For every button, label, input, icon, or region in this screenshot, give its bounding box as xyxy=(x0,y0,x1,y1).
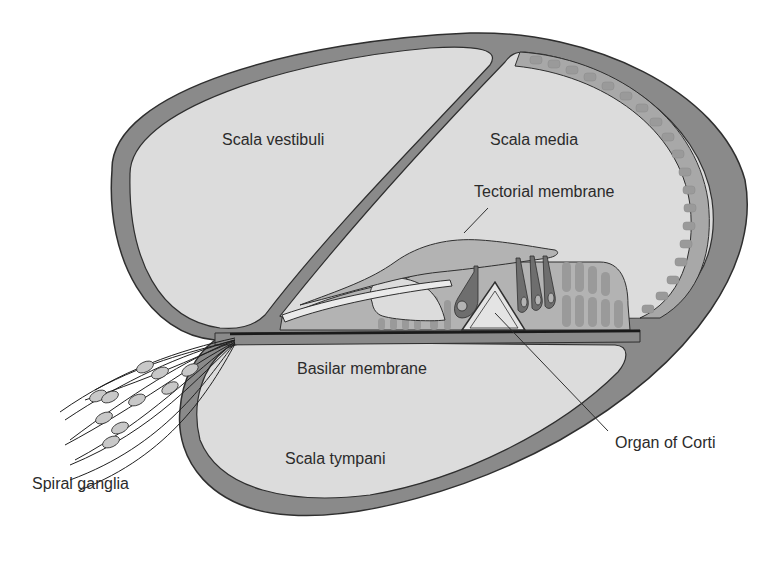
label-scala-media: Scala media xyxy=(490,131,578,149)
label-spiral-ganglia: Spiral ganglia xyxy=(32,475,129,493)
label-scala-vestibuli: Scala vestibuli xyxy=(222,131,324,149)
label-tectorial-membrane: Tectorial membrane xyxy=(474,183,615,201)
label-basilar-membrane: Basilar membrane xyxy=(297,360,427,378)
label-scala-tympani: Scala tympani xyxy=(285,450,386,468)
label-organ-of-corti: Organ of Corti xyxy=(615,434,715,452)
cochlea-diagram xyxy=(0,0,771,586)
